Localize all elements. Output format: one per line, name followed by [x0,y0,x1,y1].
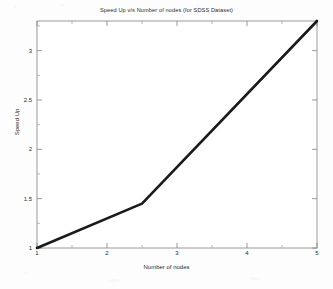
plot-area [0,0,333,289]
x-tick-label: 3 [175,250,178,256]
y-tick-label: 2.5 [18,97,32,103]
x-axis-label: Number of nodes [0,264,333,270]
y-tick-label: 1 [18,245,32,251]
y-axis-label: Speed Up [14,92,20,152]
x-tick-label: 1 [35,250,38,256]
y-tick-label: 1.5 [18,196,32,202]
chart-figure: Speed Up v/s Number of nodes (for SDSS D… [0,0,333,289]
y-tick-label: 2 [18,146,32,152]
x-tick-label: 5 [315,250,318,256]
x-tick-label: 4 [245,250,248,256]
x-tick-label: 2 [105,250,108,256]
y-tick-label: 3 [18,48,32,54]
axes-frame [37,21,317,248]
